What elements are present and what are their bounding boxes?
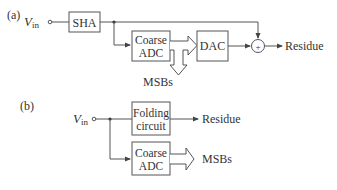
input-terminal-icon xyxy=(48,20,52,24)
digital-bus-arrow-icon xyxy=(170,36,197,75)
adc-input-wire xyxy=(114,22,130,45)
svg-text:circuit: circuit xyxy=(136,120,166,132)
folding-circuit-block: Folding circuit xyxy=(132,102,170,135)
sha-block: SHA xyxy=(69,12,100,32)
svg-text:Folding: Folding xyxy=(133,107,169,120)
residue-label-b: Residue xyxy=(202,112,241,126)
sha-label: SHA xyxy=(72,16,96,30)
digital-bus-arrow-icon xyxy=(170,148,194,170)
diagram-canvas: (a) Vin SHA Coarse ADC DAC + Residue xyxy=(0,0,337,190)
coarse-adc-block-b: Coarse ADC xyxy=(132,142,170,175)
dac-block: DAC xyxy=(197,31,228,61)
svg-text:ADC: ADC xyxy=(139,47,164,59)
vin-label-b: Vin xyxy=(73,111,88,127)
residue-label-a: Residue xyxy=(285,39,324,53)
msbs-label-b: MSBs xyxy=(202,152,232,166)
svg-text:Coarse: Coarse xyxy=(135,34,167,46)
svg-text:DAC: DAC xyxy=(200,39,225,53)
summing-junction: + xyxy=(252,40,265,53)
part-a: (a) Vin SHA Coarse ADC DAC + Residue xyxy=(7,8,324,89)
coarse-adc-block-a: Coarse ADC xyxy=(132,31,170,61)
svg-text:Coarse: Coarse xyxy=(135,147,167,159)
part-a-label: (a) xyxy=(7,8,20,22)
feedforward-wire xyxy=(100,22,258,38)
part-b: (b) Vin Folding circuit Coarse ADC Resid… xyxy=(20,99,241,175)
part-b-label: (b) xyxy=(20,99,34,113)
svg-text:+: + xyxy=(255,42,260,52)
input-terminal-icon xyxy=(92,117,96,121)
msbs-label-a: MSBs xyxy=(143,75,173,89)
svg-text:ADC: ADC xyxy=(139,160,164,172)
adc-input-wire xyxy=(110,119,130,159)
vin-label-a: Vin xyxy=(24,14,39,30)
